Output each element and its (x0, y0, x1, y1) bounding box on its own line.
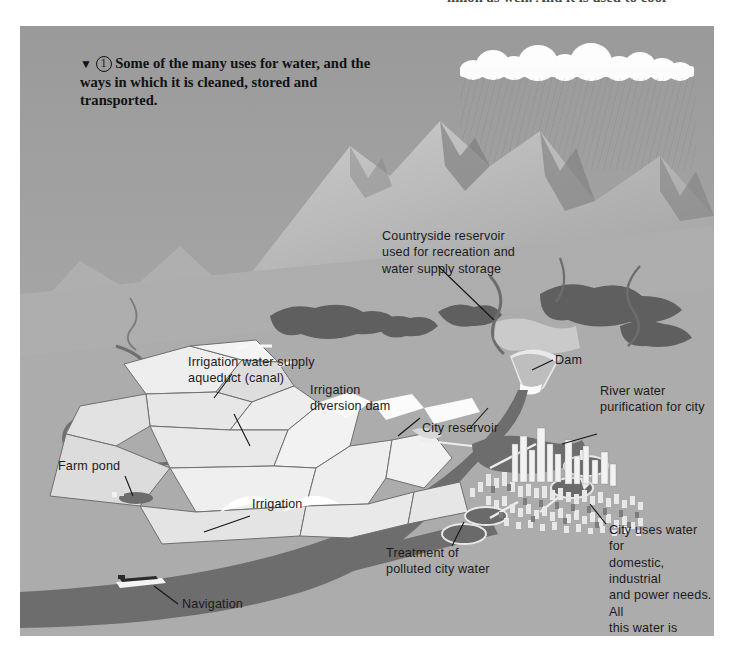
caption-text: Some of the many uses for water, and the… (80, 55, 370, 108)
label-river-water-purification: River water purification for city (600, 383, 705, 416)
leader-farm-pond (125, 476, 133, 496)
figure-number: 1 (96, 56, 112, 72)
triangle-marker: ▼ (80, 57, 92, 71)
leader-aqueduct-b (234, 414, 250, 446)
label-city-reservoir: City reservoir (422, 420, 498, 436)
leader-purification (562, 434, 597, 444)
label-countryside-reservoir: Countryside reservoir used for recreatio… (382, 228, 515, 277)
water-uses-illustration: ▼ 1 Some of the many uses for water, and… (20, 26, 714, 636)
label-navigation: Navigation (182, 596, 243, 612)
leader-irrigation (204, 516, 250, 532)
leader-city-uses (590, 504, 606, 524)
label-dam: Dam (555, 352, 582, 368)
leader-diversion-dam (398, 418, 420, 436)
label-irrigation-aqueduct: Irrigation water supply aqueduct (canal) (188, 354, 315, 387)
label-farm-pond: Farm pond (58, 458, 120, 474)
label-irrigation-diversion-dam: Irrigation diversion dam (310, 382, 390, 415)
figure-caption: ▼ 1 Some of the many uses for water, and… (80, 54, 380, 110)
label-treatment-polluted: Treatment of polluted city water (386, 545, 490, 578)
leader-navigation (154, 586, 178, 604)
leader-dam (532, 360, 553, 370)
leader-treatment (452, 522, 464, 546)
page-top-text-crop: nmon as well. And it is used to cool (0, 0, 729, 22)
partial-body-text: nmon as well. And it is used to cool (447, 0, 666, 6)
label-irrigation: Irrigation (252, 496, 303, 512)
label-city-uses: City uses water for domestic, industrial… (609, 522, 714, 636)
